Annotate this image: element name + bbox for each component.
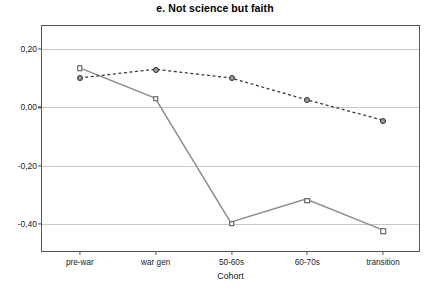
- data-point-series-squares-3: [305, 198, 311, 204]
- x-tick-mark: [155, 251, 156, 255]
- x-tick-label-2: 50-60s: [219, 258, 244, 267]
- data-point-series-circles-4: [380, 118, 386, 124]
- x-axis-label: Cohort: [42, 271, 419, 281]
- y-tick-label: 0,00: [20, 102, 37, 112]
- x-tick-mark: [383, 251, 384, 255]
- data-point-series-circles-1: [153, 67, 159, 73]
- data-point-series-squares-2: [229, 221, 235, 227]
- data-point-series-squares-0: [77, 65, 83, 71]
- data-point-series-circles-2: [229, 75, 235, 81]
- x-tick-label-1: war gen: [141, 258, 170, 267]
- x-tick-label-4: transition: [366, 258, 399, 267]
- series-line-series-squares: [80, 68, 382, 230]
- plot-area: 0,200,00-0,20-0,40 pre-warwar gen50-60s6…: [41, 25, 420, 252]
- y-tick-label: 0,20: [20, 44, 37, 54]
- x-tick-label-0: pre-war: [66, 258, 94, 267]
- x-tick-mark: [307, 251, 308, 255]
- data-point-series-circles-0: [77, 75, 83, 81]
- data-point-series-circles-3: [304, 97, 310, 103]
- x-tick-mark: [79, 251, 80, 255]
- y-tick-label: -0,40: [18, 219, 37, 229]
- data-point-series-squares-1: [153, 96, 159, 102]
- x-tick-mark: [231, 251, 232, 255]
- y-tick-label: -0,20: [18, 161, 37, 171]
- chart-figure: e. Not science but faith 0,200,00-0,20-0…: [0, 0, 430, 293]
- data-series-layer: [42, 26, 419, 251]
- x-tick-label-3: 60-70s: [295, 258, 320, 267]
- chart-title: e. Not science but faith: [0, 2, 430, 14]
- data-point-series-squares-4: [380, 228, 386, 234]
